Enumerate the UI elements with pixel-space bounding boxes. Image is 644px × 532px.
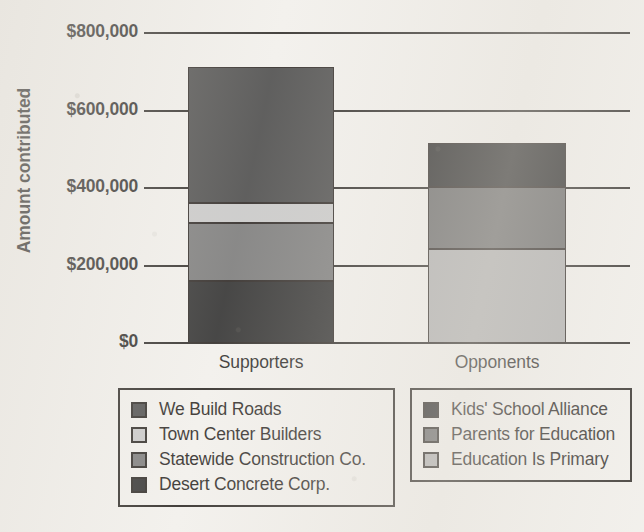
bar-segment bbox=[428, 143, 566, 187]
y-axis-tick: $600,000 bbox=[0, 99, 138, 120]
y-axis-tick-label: $0 bbox=[0, 331, 138, 352]
bar-segment bbox=[428, 249, 566, 343]
legend-item: Education Is Primary bbox=[423, 447, 621, 472]
bar-opponents bbox=[428, 143, 566, 343]
y-axis-tick: $0 bbox=[0, 331, 138, 352]
legend-item: We Build Roads bbox=[131, 397, 384, 422]
legend-item-label: Kids' School Alliance bbox=[451, 399, 608, 420]
legend-item: Statewide Construction Co. bbox=[131, 447, 384, 472]
legend-supporters: We Build RoadsTown Center BuildersStatew… bbox=[118, 388, 395, 507]
legend-swatch-icon bbox=[423, 402, 439, 418]
bar-segment bbox=[188, 203, 334, 223]
legend-swatch-icon bbox=[131, 477, 147, 493]
legend-item-label: We Build Roads bbox=[159, 399, 281, 420]
y-axis-tick: $200,000 bbox=[0, 254, 138, 275]
y-axis-tick: $400,000 bbox=[0, 176, 138, 197]
legend-swatch-icon bbox=[423, 427, 439, 443]
legend-item-label: Desert Concrete Corp. bbox=[159, 474, 330, 495]
y-axis-tick-label: $200,000 bbox=[0, 254, 138, 275]
bar-segment bbox=[188, 67, 334, 203]
legend-swatch-icon bbox=[423, 452, 439, 468]
legend-item-label: Town Center Builders bbox=[159, 424, 321, 445]
plot-area: Amount contributed $800,000$600,000$400,… bbox=[0, 0, 644, 380]
gridline bbox=[144, 32, 630, 34]
y-axis-tick: $800,000 bbox=[0, 21, 138, 42]
legend-item-label: Parents for Education bbox=[451, 424, 615, 445]
legend-swatch-icon bbox=[131, 427, 147, 443]
stacked-bar-chart: Amount contributed $800,000$600,000$400,… bbox=[0, 0, 644, 532]
legend-swatch-icon bbox=[131, 402, 147, 418]
legend-opponents: Kids' School AllianceParents for Educati… bbox=[410, 388, 632, 482]
legend-item: Desert Concrete Corp. bbox=[131, 472, 384, 497]
legend-item: Kids' School Alliance bbox=[423, 397, 621, 422]
legend-swatch-icon bbox=[131, 452, 147, 468]
legend-item-label: Education Is Primary bbox=[451, 449, 608, 470]
legend-item-label: Statewide Construction Co. bbox=[159, 449, 366, 470]
legend-item: Town Center Builders bbox=[131, 422, 384, 447]
x-axis-tick-label: Supporters bbox=[148, 352, 374, 373]
y-axis-tick-label: $800,000 bbox=[0, 21, 138, 42]
bar-segment bbox=[428, 187, 566, 249]
x-axis-tick-label: Opponents bbox=[388, 352, 606, 373]
y-axis-tick-label: $600,000 bbox=[0, 99, 138, 120]
bar-supporters bbox=[188, 67, 334, 343]
bar-segment bbox=[188, 281, 334, 343]
bar-segment bbox=[188, 223, 334, 281]
y-axis-tick-label: $400,000 bbox=[0, 176, 138, 197]
legend-item: Parents for Education bbox=[423, 422, 621, 447]
